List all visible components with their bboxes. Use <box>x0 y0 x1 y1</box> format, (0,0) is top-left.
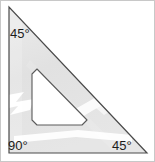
set-square-figure: 45° 90° 45° <box>0 0 155 162</box>
angle-label-bottom-right: 45° <box>112 139 132 152</box>
angle-label-top: 45° <box>10 27 30 40</box>
angle-label-bottom-left: 90° <box>8 139 28 152</box>
highlight-streak-right <box>96 82 148 115</box>
